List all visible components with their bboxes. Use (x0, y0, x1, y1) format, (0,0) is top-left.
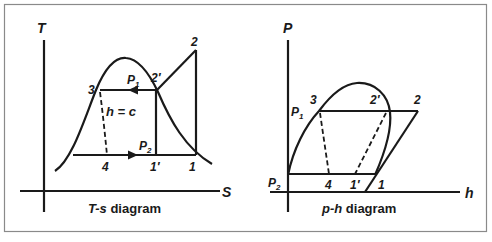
ts-caption: T-s diagram (88, 201, 161, 216)
ts-t-axis-label: T (37, 20, 47, 36)
ph-line-2-1 (365, 111, 418, 192)
ts-line-2-2prime (157, 50, 196, 90)
ts-diagram: T S 3 2′ 2 4 1′ 1 P1 P2 h = c T-s diagra… (20, 20, 232, 216)
ph-point-4: 4 (324, 178, 332, 192)
ts-throttle-label: h = c (106, 104, 137, 119)
ph-diagram: P h 3 2′ 2 4 1′ 1 P1 P2 p-h diagram (268, 20, 474, 216)
ts-pressure-p1: P1 (127, 73, 140, 89)
ts-point-1: 1 (189, 160, 196, 174)
ts-point-1prime: 1′ (150, 160, 161, 174)
refrigeration-cycle-figure: T S 3 2′ 2 4 1′ 1 P1 P2 h = c T-s diagra… (0, 0, 492, 242)
ph-point-1prime: 1′ (350, 178, 361, 192)
ts-point-2prime: 2′ (150, 71, 162, 85)
ph-point-3: 3 (310, 93, 317, 107)
ph-pressure-p1: P1 (291, 105, 304, 121)
ts-arrow-right-icon (128, 151, 138, 160)
ph-line-2prime-1prime (355, 113, 386, 174)
ph-point-1: 1 (378, 178, 385, 192)
ph-throttle-line (320, 113, 329, 174)
ts-s-axis-label: S (222, 184, 232, 200)
ts-point-2: 2 (190, 35, 198, 49)
ph-point-2: 2 (413, 93, 421, 107)
ts-pressure-p2: P2 (139, 139, 152, 155)
ts-throttle-line (100, 92, 107, 155)
ph-pressure-p2: P2 (268, 176, 281, 192)
ts-point-3: 3 (88, 83, 95, 97)
ph-point-2prime: 2′ (369, 93, 381, 107)
ph-p-axis-label: P (283, 20, 293, 36)
ts-point-4: 4 (101, 160, 109, 174)
ph-h-axis-label: h (465, 185, 474, 201)
ph-caption: p-h diagram (321, 201, 396, 216)
